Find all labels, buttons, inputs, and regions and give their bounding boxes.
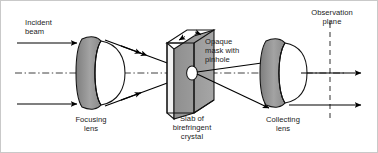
label-opaque-mask: Opaque mask with pinhole	[205, 37, 239, 64]
figure-canvas: Incident beam Opaque mask with pinhole O…	[0, 0, 378, 153]
collecting-lens	[260, 39, 307, 107]
label-incident-beam: Incident beam	[25, 18, 52, 36]
label-crystal-slab: Slab of birefringent crystal	[156, 114, 228, 141]
label-focusing-lens: Focusing lens	[58, 115, 124, 133]
label-collecting-lens: Collecting lens	[249, 115, 317, 133]
label-observation-plane: Observation plane	[294, 8, 370, 26]
focusing-lens	[76, 37, 125, 109]
pinhole-aperture	[187, 66, 198, 80]
incident-beam-rays	[17, 43, 77, 104]
